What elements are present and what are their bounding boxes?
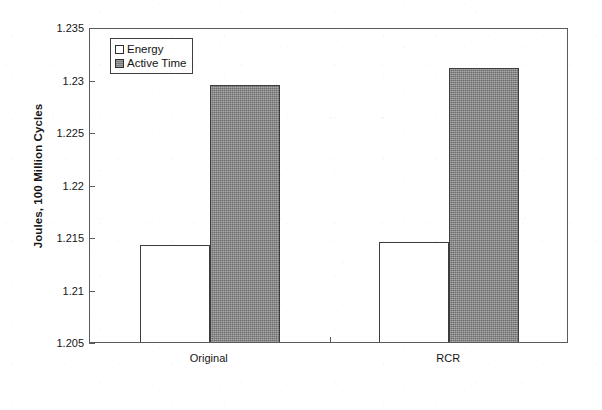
- legend-item-label: Active Time: [127, 57, 186, 70]
- y-axis-tick-label: 1.22: [24, 180, 84, 192]
- y-axis-tick-mark: [89, 343, 95, 344]
- bar-original-active-time: [210, 85, 280, 342]
- x-axis-tick-label-rcr: RCR: [436, 352, 460, 364]
- plot-area: [89, 28, 568, 343]
- y-axis-tick-mark: [89, 291, 95, 292]
- y-axis-tick-labels: 1.2351.231.2251.221.2151.211.205: [20, 28, 84, 343]
- y-axis-tick-label: 1.215: [24, 232, 84, 244]
- y-axis-tick-mark: [89, 28, 95, 29]
- chart-legend: EnergyActive Time: [110, 38, 193, 74]
- y-axis-tick-mark: [89, 81, 95, 82]
- bar-chart: Joules, 100 Million Cycles 1.2351.231.22…: [0, 0, 602, 410]
- legend-item-label: Energy: [127, 43, 163, 56]
- bar-rcr-active-time: [449, 68, 519, 342]
- legend-swatch-icon: [115, 45, 124, 54]
- y-axis-tick-label: 1.235: [24, 22, 84, 34]
- x-axis-tick-label-original: Original: [190, 352, 228, 364]
- bar-rcr-energy: [379, 242, 449, 342]
- x-axis-category-separator: [330, 337, 331, 342]
- y-axis-tick-mark: [89, 238, 95, 239]
- legend-item-active-time: Active Time: [115, 56, 186, 70]
- legend-swatch-icon: [115, 59, 124, 68]
- legend-item-energy: Energy: [115, 42, 186, 56]
- y-axis-tick-mark: [89, 133, 95, 134]
- y-axis-tick-label: 1.21: [24, 285, 84, 297]
- bar-original-energy: [140, 245, 210, 342]
- y-axis-tick-mark: [89, 186, 95, 187]
- y-axis-tick-label: 1.225: [24, 127, 84, 139]
- y-axis-tick-label: 1.205: [24, 337, 84, 349]
- y-axis-tick-label: 1.23: [24, 75, 84, 87]
